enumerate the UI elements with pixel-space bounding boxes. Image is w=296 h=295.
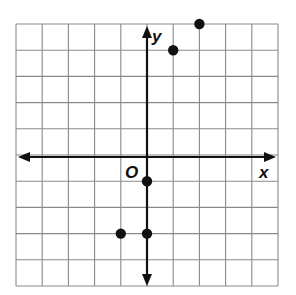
x-axis-right-arrow-icon: [264, 152, 276, 162]
data-point: [142, 228, 152, 238]
axes: [18, 26, 276, 286]
data-point: [142, 176, 152, 186]
data-point: [194, 19, 204, 29]
origin-label: O: [125, 163, 138, 182]
x-axis-left-arrow-icon: [18, 152, 30, 162]
y-axis-up-arrow-icon: [142, 26, 152, 38]
y-axis-down-arrow-icon: [142, 274, 152, 286]
coordinate-plane: x y O: [0, 0, 296, 295]
y-axis-label: y: [151, 27, 163, 46]
data-point: [116, 228, 126, 238]
x-axis-label: x: [258, 163, 270, 182]
data-point: [168, 45, 178, 55]
